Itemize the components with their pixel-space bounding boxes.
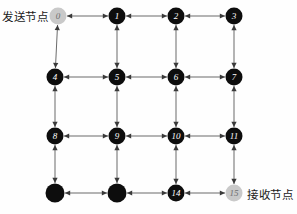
- arrowhead-9-to-5: [114, 86, 119, 91]
- arrowhead-6-to-10: [173, 122, 178, 127]
- node-circle-13[interactable]: [108, 184, 127, 203]
- arrowhead-3-to-2: [185, 13, 190, 18]
- edges-layer: [55, 16, 234, 193]
- node-label-1: 1: [115, 11, 120, 21]
- arrowhead-4-to-8: [52, 122, 57, 127]
- arrowhead-6-to-7: [220, 74, 225, 79]
- node-11[interactable]: 11: [226, 128, 243, 145]
- arrowhead-8-to-4: [52, 86, 57, 91]
- arrowhead-3-to-7: [231, 63, 236, 68]
- node-label-14: 14: [172, 188, 182, 198]
- node-13[interactable]: [108, 184, 127, 203]
- node-0[interactable]: 0: [50, 8, 67, 25]
- node-label-15: 15: [230, 188, 240, 198]
- arrowhead-14-to-10: [173, 145, 178, 150]
- arrowhead-6-to-2: [173, 25, 178, 30]
- arrowhead-10-to-11: [220, 133, 225, 138]
- diagram-canvas: 012345678910111415 发送节点 接收节点: [0, 0, 297, 214]
- node-label-4: 4: [53, 72, 58, 82]
- node-7[interactable]: 7: [226, 69, 243, 86]
- arrowhead-7-to-6: [185, 74, 190, 79]
- node-label-11: 11: [230, 131, 238, 141]
- node-3[interactable]: 3: [226, 8, 243, 25]
- node-label-6: 6: [174, 72, 179, 82]
- grid-network-graph: 012345678910111415: [0, 0, 297, 214]
- arrowhead-15-to-11: [231, 145, 236, 150]
- node-4[interactable]: 4: [47, 69, 64, 86]
- sender-node-label: 发送节点: [2, 8, 48, 24]
- arrowhead-8-to-9: [103, 133, 108, 138]
- nodes-layer: 012345678910111415: [46, 8, 243, 203]
- node-15[interactable]: 15: [226, 185, 243, 202]
- arrowhead-5-to-6: [162, 74, 167, 79]
- arrowhead-14-to-15: [220, 190, 225, 195]
- arrowhead-1-to-2: [162, 13, 167, 18]
- arrowhead-13-to-12: [65, 190, 70, 195]
- arrowhead-5-to-9: [114, 122, 119, 127]
- arrowhead-10-to-9: [126, 133, 131, 138]
- arrowhead-14-to-13: [127, 190, 132, 195]
- arrowhead-11-to-15: [231, 179, 236, 184]
- arrowheads-layer: [52, 13, 236, 195]
- arrowhead-7-to-3: [231, 25, 236, 30]
- arrowhead-8-to-12: [52, 178, 57, 183]
- node-6[interactable]: 6: [168, 69, 185, 86]
- arrowhead-0-to-1: [103, 13, 108, 18]
- node-14[interactable]: 14: [168, 185, 185, 202]
- arrowhead-15-to-14: [185, 190, 190, 195]
- arrowhead-1-to-5: [114, 63, 119, 68]
- node-circle-12[interactable]: [46, 184, 65, 203]
- receiver-node-label: 接收节点: [247, 186, 293, 202]
- arrowhead-10-to-6: [173, 86, 178, 91]
- arrowhead-9-to-10: [162, 133, 167, 138]
- arrowhead-7-to-11: [231, 122, 236, 127]
- arrowhead-10-to-14: [173, 179, 178, 184]
- arrowhead-4-to-5: [103, 74, 108, 79]
- arrowhead-5-to-1: [114, 25, 119, 30]
- arrowhead-2-to-3: [220, 13, 225, 18]
- arrowhead-12-to-8: [52, 145, 57, 150]
- edge-0-4: [55, 25, 57, 68]
- node-label-9: 9: [115, 131, 120, 141]
- arrowhead-13-to-14: [162, 190, 167, 195]
- arrowhead-2-to-1: [126, 13, 131, 18]
- node-10[interactable]: 10: [168, 128, 185, 145]
- arrowhead-4-to-0: [55, 25, 60, 30]
- arrowhead-0-to-4: [53, 63, 58, 68]
- arrowhead-9-to-13: [114, 178, 119, 183]
- node-12[interactable]: [46, 184, 65, 203]
- node-9[interactable]: 9: [109, 128, 126, 145]
- arrowhead-9-to-8: [64, 133, 69, 138]
- node-label-2: 2: [174, 11, 179, 21]
- arrowhead-6-to-5: [126, 74, 131, 79]
- node-label-10: 10: [172, 131, 182, 141]
- arrowhead-11-to-7: [231, 86, 236, 91]
- node-label-7: 7: [232, 72, 237, 82]
- arrowhead-12-to-13: [102, 190, 107, 195]
- node-label-8: 8: [53, 131, 58, 141]
- node-label-3: 3: [231, 11, 237, 21]
- node-8[interactable]: 8: [47, 128, 64, 145]
- arrowhead-5-to-4: [64, 74, 69, 79]
- node-label-5: 5: [115, 72, 120, 82]
- arrowhead-11-to-10: [185, 133, 190, 138]
- arrowhead-1-to-0: [67, 13, 72, 18]
- node-label-0: 0: [56, 11, 61, 21]
- arrowhead-13-to-9: [114, 145, 119, 150]
- node-5[interactable]: 5: [109, 69, 126, 86]
- node-2[interactable]: 2: [168, 8, 185, 25]
- arrowhead-2-to-6: [173, 63, 178, 68]
- node-1[interactable]: 1: [109, 8, 126, 25]
